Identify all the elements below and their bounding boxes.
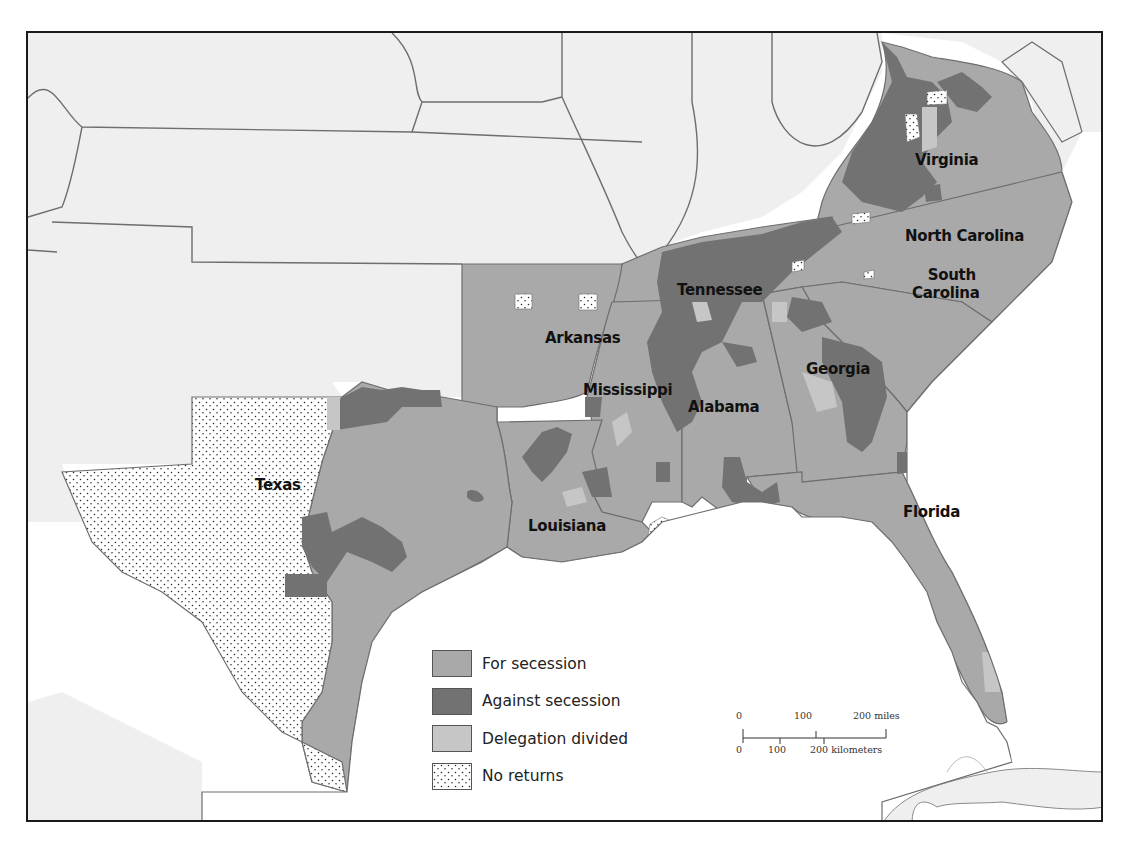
label-louisiana: Louisiana (528, 517, 606, 535)
scale-bar: 0 100 200 miles 0 100 200 kilometers (738, 710, 898, 760)
legend-item-delegation-divided: Delegation divided (432, 720, 628, 758)
legend-swatch-no-returns (432, 763, 472, 790)
label-texas: Texas (255, 476, 301, 494)
scale-km-200: 200 kilometers (810, 744, 882, 755)
label-arkansas: Arkansas (545, 329, 620, 347)
label-tennessee: Tennessee (677, 281, 762, 299)
legend-item-against-secession: Against secession (432, 683, 628, 721)
legend-swatch-against-secession (432, 688, 472, 715)
legend-item-for-secession: For secession (432, 645, 628, 683)
legend-swatch-delegation-divided (432, 725, 472, 752)
label-alabama: Alabama (688, 398, 759, 416)
label-south-carolina-line2: Carolina (912, 284, 980, 302)
label-north-carolina: North Carolina (905, 227, 1024, 245)
map-legend: For secession Against secession Delegati… (432, 645, 628, 795)
legend-label: Against secession (482, 692, 621, 710)
label-mississippi: Mississippi (583, 381, 672, 399)
legend-label: For secession (482, 655, 587, 673)
label-georgia: Georgia (806, 360, 870, 378)
label-south-carolina: South Carolina (924, 266, 980, 302)
scale-km-100: 100 (768, 744, 786, 755)
legend-label: Delegation divided (482, 730, 628, 748)
legend-item-no-returns: No returns (432, 758, 628, 796)
label-florida: Florida (903, 503, 960, 521)
label-south-carolina-line1: South (924, 266, 980, 284)
label-virginia: Virginia (915, 151, 978, 169)
legend-swatch-for-secession (432, 650, 472, 677)
scale-km-0: 0 (736, 744, 742, 755)
legend-label: No returns (482, 767, 563, 785)
